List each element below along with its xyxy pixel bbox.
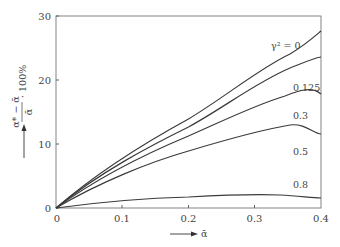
y-label-denominator: ᾱ xyxy=(23,108,34,115)
chart: 0 10 20 30 0 0.1 0.2 0.3 0.4 γ² = 0 0.12… xyxy=(0,0,340,247)
y-tick-label: 10 xyxy=(38,139,51,150)
y-tick-label: 20 xyxy=(38,75,51,86)
x-tick-label: 0.1 xyxy=(114,213,130,224)
x-tick-label: 0 xyxy=(54,213,60,224)
y-tick-label: 30 xyxy=(38,11,51,22)
series-gamma-03 xyxy=(56,90,321,208)
label-gamma-03: 0.3 xyxy=(293,110,308,121)
y-axis-label: α* − ᾱ ᾱ · 100% xyxy=(10,65,34,128)
x-axis-label: ᾱ xyxy=(201,228,208,239)
y-label-suffix: · 100% xyxy=(17,65,28,98)
x-tick-label: 0.3 xyxy=(247,213,263,224)
series-gamma-0125 xyxy=(56,57,321,208)
label-gamma-0125: 0.125 xyxy=(293,82,320,93)
y-label-numerator: α* − ᾱ xyxy=(10,96,21,128)
label-gamma-05: 0.5 xyxy=(293,146,308,157)
label-gamma-0: γ² = 0 xyxy=(271,40,301,51)
x-tick-label: 0.4 xyxy=(313,213,329,224)
y-tick-label: 0 xyxy=(45,203,51,214)
right-arrow-icon xyxy=(170,232,198,237)
label-gamma-08: 0.8 xyxy=(293,179,308,190)
series-group xyxy=(56,31,321,208)
curve-labels: γ² = 0 0.125 0.3 0.5 0.8 xyxy=(271,40,320,190)
x-tick-label: 0.2 xyxy=(181,213,197,224)
up-arrow-icon xyxy=(22,124,27,158)
